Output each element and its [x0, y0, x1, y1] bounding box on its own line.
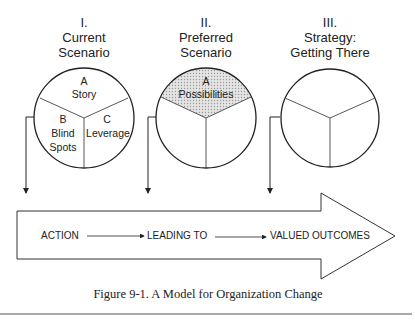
stage-title: Preferred: [179, 30, 233, 45]
stage-current-scenario: I. Current Scenario A Story B Blind Spot…: [26, 15, 134, 193]
figure-caption: Figure 9-1. A Model for Organization Cha…: [93, 287, 323, 301]
stage-title: Scenario: [58, 45, 109, 60]
stage-numeral: III.: [323, 15, 337, 30]
flow-step-valued-outcomes: VALUED OUTCOMES: [270, 230, 370, 241]
stage-title: Scenario: [180, 45, 231, 60]
organization-change-diagram: I. Current Scenario A Story B Blind Spot…: [0, 0, 415, 322]
segment-label-story: Story: [72, 88, 97, 100]
stage-strategy: III. Strategy: Getting There: [270, 15, 379, 193]
segment-label-blind-spots: Blind: [51, 127, 75, 139]
segment-letter: B: [59, 113, 66, 125]
segment-letter: A: [80, 75, 87, 87]
stage-numeral: II.: [201, 15, 212, 30]
flow-step-leading-to: LEADING TO: [147, 230, 207, 241]
down-arrow: [26, 117, 34, 193]
down-arrow: [270, 117, 280, 193]
segment-letter: C: [103, 113, 111, 125]
stage-title: Strategy:: [304, 30, 356, 45]
segment-label-blind-spots: Spots: [50, 141, 77, 153]
segment-label-leverage: Leverage: [86, 127, 130, 139]
segment-label-possibilities: Possibilities: [179, 88, 234, 100]
segment-divider: [330, 98, 375, 118]
stage-title: Getting There: [290, 45, 369, 60]
stage-numeral: I.: [80, 15, 87, 30]
stage-preferred-scenario: II. Preferred Scenario A Possibilities: [148, 15, 256, 193]
flow-step-action: ACTION: [41, 230, 79, 241]
segment-letter: A: [202, 75, 209, 87]
segment-divider: [285, 98, 330, 118]
flow-arrow: ACTION LEADING TO VALUED OUTCOMES: [17, 193, 395, 279]
stage-title: Current: [62, 30, 106, 45]
down-arrow: [148, 117, 156, 193]
